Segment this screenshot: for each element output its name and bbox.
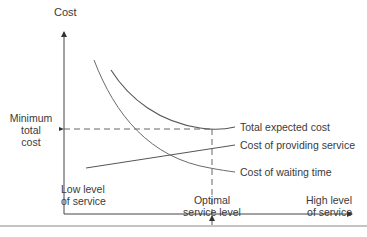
min-cost-label-line3: cost (8, 136, 54, 148)
legend-total-cost: Total expected cost (240, 121, 330, 133)
min-cost-label-line1: Minimum (8, 112, 54, 124)
x-label-low-line2: of service (61, 195, 106, 207)
x-label-optimal-line1: Optimal (180, 194, 244, 206)
x-label-optimal-line2: service level (180, 206, 244, 218)
total-cost-curve (111, 70, 235, 129)
x-label-high-line2: of service (300, 206, 352, 218)
min-cost-label: Minimum total cost (8, 112, 54, 148)
y-axis-title: Cost (54, 6, 77, 18)
x-label-low-line1: Low level (61, 183, 106, 195)
providing-cost-line (86, 145, 235, 168)
x-label-optimal: Optimal service level (180, 194, 244, 218)
legend-waiting-cost: Cost of waiting time (240, 166, 332, 178)
min-cost-arrow-icon (59, 127, 64, 131)
x-label-low: Low level of service (61, 183, 106, 207)
x-label-high: High level of service (300, 194, 352, 218)
x-label-high-line1: High level (300, 194, 352, 206)
min-cost-label-line2: total (8, 124, 54, 136)
legend-providing-cost: Cost of providing service (240, 139, 355, 151)
